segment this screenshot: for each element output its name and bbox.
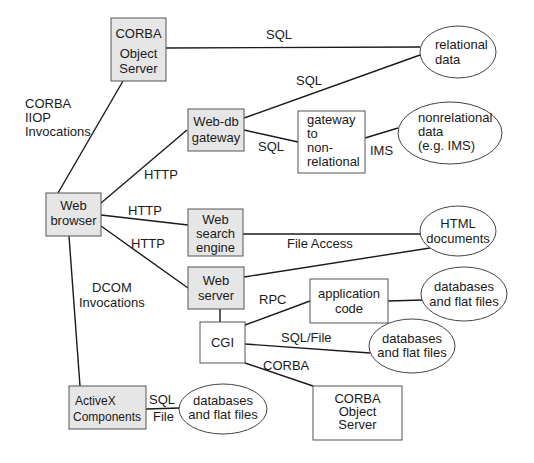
node-databases-cgi: databases and flat files xyxy=(369,319,455,373)
edge-label-sql-webdb-gateway: SQL xyxy=(258,139,284,154)
edge-label-activex-sql: SQL xyxy=(149,392,175,407)
edge-label-http-search: HTTP xyxy=(128,203,162,218)
node-activex-components: ActiveX Components xyxy=(69,386,146,429)
node-application-code: application code xyxy=(310,279,388,323)
node-label: Server xyxy=(119,61,158,76)
edge-label-corba-iiop: Invocations xyxy=(25,124,91,139)
node-webdb-gateway: Web-db gateway xyxy=(188,109,244,151)
node-web-server: Web server xyxy=(188,267,244,309)
node-label: Object xyxy=(120,46,158,61)
node-label: server xyxy=(198,288,235,303)
edge-label-corba-iiop: CORBA xyxy=(25,96,72,111)
edge-label-dcom: DCOM xyxy=(92,280,132,295)
node-label: relational xyxy=(435,37,488,52)
edge-server-html xyxy=(244,248,430,277)
node-label: Server xyxy=(338,417,377,432)
node-label: Components xyxy=(73,410,141,424)
edge-label-corba-iiop: IIOP xyxy=(25,110,51,125)
architecture-diagram: CORBA Object Server relational data Web-… xyxy=(0,0,534,463)
node-corba-server-top: CORBA Object Server xyxy=(111,18,166,81)
edge-webdb-relational xyxy=(244,55,420,118)
node-relational-data: relational data xyxy=(420,26,496,78)
node-web-browser: Web browser xyxy=(46,193,101,236)
edge-label-corba-cgi: CORBA xyxy=(263,358,310,373)
edge-label-http-webdb: HTTP xyxy=(144,167,178,182)
edge-label-sql-top: SQL xyxy=(266,27,292,42)
node-label: Web xyxy=(60,198,87,213)
edge-label-ims: IMS xyxy=(370,143,393,158)
node-web-search-engine: Web search engine xyxy=(188,209,243,256)
node-label: databases xyxy=(434,279,494,294)
node-label: nonrelational xyxy=(418,110,493,125)
node-label: gateway xyxy=(192,130,241,145)
node-label: databases xyxy=(193,393,253,408)
edge-app-db xyxy=(388,300,423,301)
edge-label-file-access: File Access xyxy=(287,236,353,251)
node-label: Web xyxy=(203,273,230,288)
node-label: engine xyxy=(196,240,235,255)
node-label: gateway xyxy=(307,112,356,127)
edge-corba-relational xyxy=(166,47,420,48)
edge-label-sql-webdb-relational: SQL xyxy=(296,73,322,88)
node-label: relational xyxy=(307,154,360,169)
edge-label-sql-file: SQL/File xyxy=(281,330,332,345)
node-label: and flat files xyxy=(377,345,447,360)
node-databases-app: databases and flat files xyxy=(421,267,507,321)
node-label: Web xyxy=(202,212,229,227)
node-cgi: CGI xyxy=(200,322,245,363)
edge-browser-activex xyxy=(69,236,80,386)
node-gateway-nonrelational: gateway to non- relational xyxy=(298,111,365,173)
node-corba-server-bottom: CORBA Object Server xyxy=(313,386,402,440)
node-html-documents: HTML documents xyxy=(420,206,496,256)
node-label: data xyxy=(435,52,461,67)
node-label: data xyxy=(418,124,444,139)
node-label: non- xyxy=(307,140,333,155)
node-label: to xyxy=(307,126,318,141)
node-nonrelational-data: nonrelational data (e.g. IMS) xyxy=(398,102,502,164)
node-label: databases xyxy=(382,331,442,346)
node-label: application xyxy=(318,286,380,301)
node-label: and flat files xyxy=(188,407,258,422)
node-label: documents xyxy=(426,231,490,246)
edge-label-activex-file: File xyxy=(153,409,174,424)
node-label: code xyxy=(335,301,363,316)
edge-label-http-server: HTTP xyxy=(131,236,165,251)
edge-gateway-nonrel xyxy=(365,128,398,138)
node-label: (e.g. IMS) xyxy=(418,138,475,153)
node-label: and flat files xyxy=(429,294,499,309)
node-label: CGI xyxy=(211,335,234,350)
node-label: ActiveX xyxy=(75,394,116,408)
node-databases-activex: databases and flat files xyxy=(179,384,267,434)
node-label: HTML xyxy=(440,216,475,231)
node-label: browser xyxy=(50,213,97,228)
node-label: Web-db xyxy=(193,114,238,129)
edge-cgi-db xyxy=(245,344,370,353)
edge-label-rpc: RPC xyxy=(259,292,286,307)
node-label: search xyxy=(196,226,235,241)
edge-label-dcom: Invocations xyxy=(79,295,145,310)
node-label: CORBA xyxy=(115,26,162,41)
